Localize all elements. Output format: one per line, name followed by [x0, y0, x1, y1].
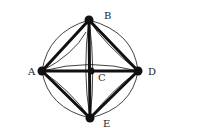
- label-a: A: [27, 66, 36, 77]
- edge-b-d: [89, 20, 138, 71]
- label-c: C: [98, 72, 106, 83]
- edge-e-a: [42, 71, 90, 118]
- edge-a-b: [42, 20, 89, 71]
- graph-diagram: A B C D E: [0, 0, 197, 128]
- label-e: E: [103, 118, 110, 128]
- label-d: D: [148, 66, 156, 77]
- node-c: [88, 68, 95, 75]
- node-b: [85, 16, 94, 25]
- node-a: [38, 67, 47, 76]
- node-e: [86, 114, 95, 123]
- label-b: B: [104, 10, 111, 21]
- node-d: [134, 67, 143, 76]
